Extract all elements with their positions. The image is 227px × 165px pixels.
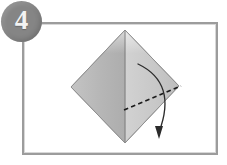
step-number-badge: 4 — [1, 1, 42, 42]
figure-caption — [24, 158, 174, 165]
origami-diagram — [22, 22, 218, 155]
fold-direction-arrowhead — [155, 126, 163, 139]
origami-step-figure: 4 — [0, 0, 227, 165]
step-number-label: 4 — [1, 1, 42, 42]
